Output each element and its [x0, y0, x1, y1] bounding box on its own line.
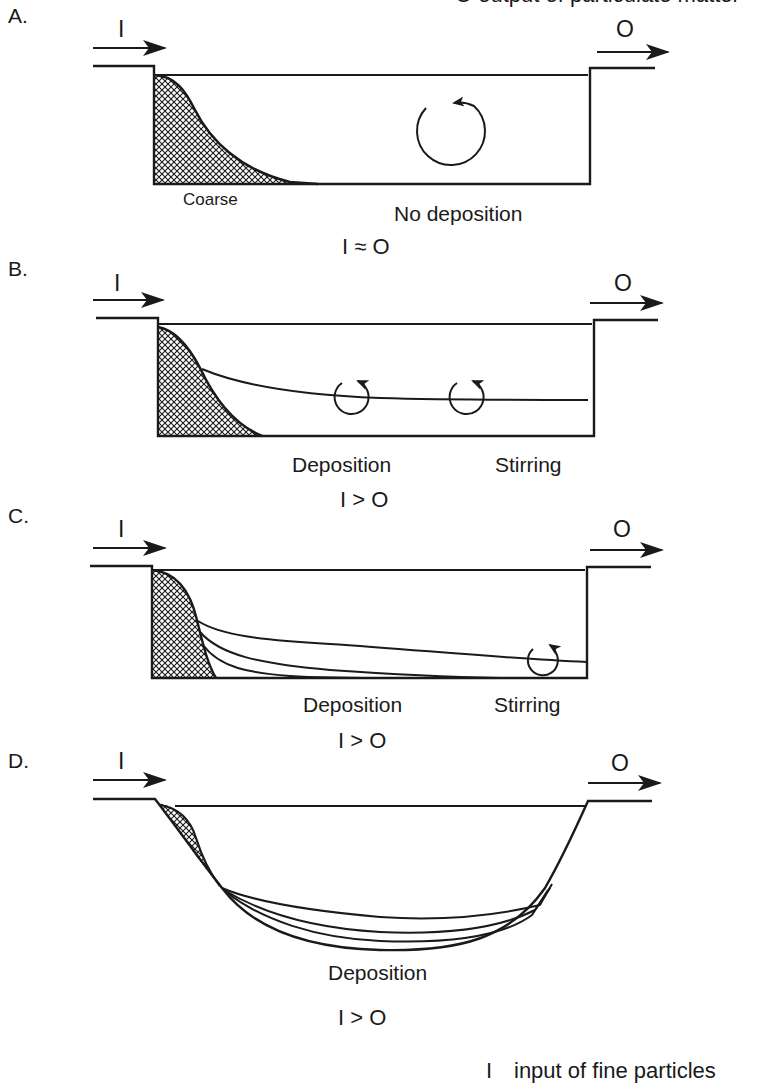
legend-symbol: I: [486, 1060, 492, 1082]
stirring-label: Stirring: [495, 454, 562, 475]
coarse-sediment-hatch: [152, 570, 216, 678]
coarse-label: Coarse: [183, 191, 238, 208]
no-deposition-label: No deposition: [394, 203, 522, 224]
stirring-arrow-icon: [450, 381, 484, 414]
deposition-label: Deposition: [303, 694, 402, 715]
fine-sediment-layer-2: [200, 632, 500, 678]
coarse-sediment-hatch: [158, 327, 262, 436]
legend-text: input of fine particles: [514, 1060, 716, 1082]
panel-letter-c: C.: [8, 505, 29, 526]
panel-d: [93, 780, 660, 950]
output-label: O: [616, 18, 634, 41]
stirring-label: Stirring: [494, 694, 561, 715]
deposition-label: Deposition: [328, 962, 427, 983]
panel-letter-b: B.: [8, 258, 28, 279]
top-legend-cut-text: O output of particulate matter: [455, 0, 740, 6]
fine-sediment-layer-3: [226, 890, 548, 942]
relation-label: I ≈ O: [342, 236, 390, 258]
fine-sediment-surface: [202, 369, 588, 400]
fine-sediment-layer-1: [222, 884, 552, 919]
panel-c: [90, 548, 662, 678]
deposition-label: Deposition: [292, 454, 391, 475]
relation-label: I > O: [338, 1007, 386, 1029]
relation-label: I > O: [340, 489, 388, 511]
panel-b: [93, 300, 662, 436]
input-label: I: [114, 272, 120, 295]
input-label: I: [118, 750, 124, 773]
output-label: O: [613, 518, 631, 541]
output-label: O: [611, 752, 629, 775]
sedimentation-diagram: [0, 0, 761, 1084]
panel-a: [93, 48, 668, 184]
input-label: I: [118, 518, 124, 541]
panel-letter-d: D.: [8, 750, 29, 771]
relation-label: I > O: [338, 730, 386, 752]
circulation-arrow-icon: [417, 103, 485, 165]
input-label: I: [118, 18, 124, 41]
output-label: O: [614, 272, 632, 295]
coarse-sediment-hatch: [154, 75, 318, 184]
panel-letter-a: A.: [8, 5, 28, 26]
fine-sediment-layer-2: [224, 888, 550, 933]
